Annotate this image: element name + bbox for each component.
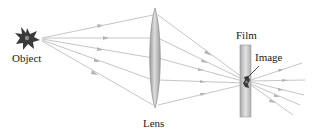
diagram-canvas: [0, 0, 323, 132]
lens-label: Lens: [143, 118, 164, 129]
film-label: Film: [236, 30, 257, 41]
lens-icon: [150, 8, 161, 108]
incident-rays: [42, 15, 153, 105]
image-label: Image: [255, 52, 282, 63]
object-label: Object: [12, 53, 41, 64]
refracted-ray-arrows: [198, 50, 212, 96]
object-icon: [15, 27, 40, 50]
transmitted-ray-arrows: [269, 69, 288, 103]
lens-camera-diagram: Object Lens Film Image: [0, 0, 323, 132]
